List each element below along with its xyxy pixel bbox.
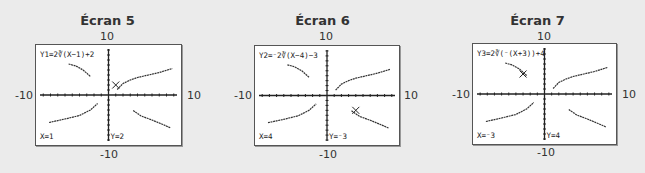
xmin-label: -10 — [15, 89, 33, 102]
xmin-label: -10 — [234, 89, 252, 102]
curve-upper-right — [336, 69, 391, 90]
y-readout: Y=2 — [111, 133, 125, 141]
screen-title: Écran 5 — [0, 13, 215, 28]
curve-lower-left — [268, 104, 316, 123]
y-readout: Y=4 — [547, 132, 561, 140]
xmax-label: 10 — [404, 89, 418, 102]
x-readout: X=4 — [259, 133, 273, 141]
ymax-label: 10 — [537, 30, 551, 43]
xmax-label: 10 — [187, 89, 201, 102]
calculator-screen-7: Y3=2∛(⁻(X+3))+4 X=⁻3 Y=4 — [472, 43, 617, 145]
xmax-label: 10 — [622, 88, 636, 101]
ymax-label: 10 — [100, 30, 114, 43]
curve-upper-left — [69, 64, 91, 77]
screen-title: Écran 7 — [430, 13, 645, 28]
curve-lower-right — [352, 111, 389, 128]
curve-lower-right — [569, 110, 606, 128]
calculator-screen-6: Y2=⁻2∛(X−4)−3 X=4 Y=⁻3 — [254, 45, 400, 146]
curve-lower-right — [133, 111, 171, 129]
ymin-label: -10 — [537, 146, 555, 159]
trace-cursor-icon — [112, 82, 119, 89]
equation-label: Y3=2∛(⁻(X+3))+4 — [477, 50, 545, 58]
equation-label: Y1=2∛(X−1)+2 — [40, 51, 94, 59]
xmin-label: -10 — [452, 88, 470, 101]
graph-plot — [36, 45, 181, 145]
curve-lower-left — [49, 104, 98, 123]
x-readout: X=1 — [40, 133, 54, 141]
curve-lower-left — [486, 103, 534, 122]
curve-upper-left — [287, 65, 309, 77]
x-readout: X=⁻3 — [477, 132, 495, 140]
ymax-label: 10 — [319, 30, 333, 43]
y-readout: Y=⁻3 — [329, 133, 347, 141]
ymin-label: -10 — [319, 148, 337, 161]
trace-cursor-icon — [352, 107, 359, 114]
graph-plot — [255, 46, 399, 145]
equation-label: Y2=⁻2∛(X−4)−3 — [259, 52, 318, 60]
screen-title: Écran 6 — [215, 13, 430, 28]
curve-upper-right — [117, 69, 172, 90]
ymin-label: -10 — [100, 148, 118, 161]
graph-plot — [473, 44, 616, 144]
calculator-screen-5: Y1=2∛(X−1)+2 X=1 Y=2 — [35, 44, 182, 146]
curve-upper-right — [553, 68, 607, 89]
